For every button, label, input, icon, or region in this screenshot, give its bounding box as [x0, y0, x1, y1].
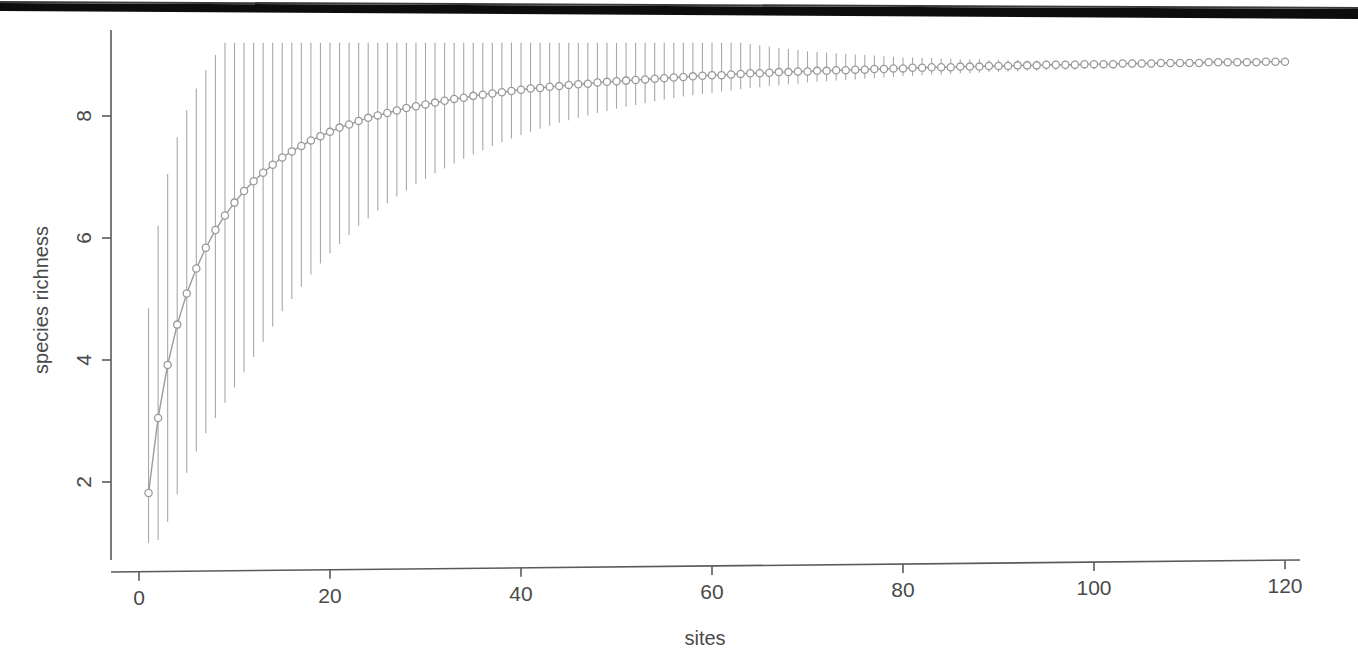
- data-point: [517, 86, 524, 93]
- data-point: [1215, 59, 1222, 66]
- x-tick-label: 60: [700, 580, 723, 603]
- data-point: [1119, 60, 1126, 67]
- data-point: [269, 161, 276, 168]
- rarefaction-plot: 2468 020406080100120 sites species richn…: [0, 0, 1358, 665]
- data-point: [603, 78, 610, 85]
- data-point: [1253, 59, 1260, 66]
- data-point: [1272, 58, 1279, 65]
- data-point: [317, 133, 324, 140]
- data-point: [718, 72, 725, 79]
- data-point: [336, 124, 343, 131]
- x-tick-label: 20: [318, 584, 341, 607]
- data-point: [756, 70, 763, 77]
- y-tick-label: 4: [72, 354, 95, 366]
- data-point: [880, 65, 887, 72]
- data-point: [508, 87, 515, 94]
- data-point: [365, 114, 372, 121]
- data-point: [852, 66, 859, 73]
- x-tick-label: 120: [1267, 574, 1302, 597]
- data-point: [145, 489, 152, 496]
- data-point: [164, 361, 171, 368]
- data-point: [1243, 59, 1250, 66]
- data-point: [155, 414, 162, 421]
- data-point: [622, 77, 629, 84]
- data-point: [1090, 61, 1097, 68]
- data-point: [546, 83, 553, 90]
- data-point: [556, 83, 563, 90]
- data-point: [794, 68, 801, 75]
- data-point: [1129, 60, 1136, 67]
- x-axis-title: sites: [684, 627, 725, 649]
- data-point: [1100, 61, 1107, 68]
- x-tick-labels: 020406080100120: [133, 574, 1302, 609]
- data-point: [355, 117, 362, 124]
- data-point: [527, 85, 534, 92]
- data-point: [804, 68, 811, 75]
- data-point: [1205, 59, 1212, 66]
- data-point: [909, 64, 916, 71]
- x-axis: [111, 560, 1300, 581]
- data-point: [575, 81, 582, 88]
- data-point: [403, 104, 410, 111]
- data-point: [766, 69, 773, 76]
- data-point: [670, 74, 677, 81]
- data-point: [947, 64, 954, 71]
- data-point: [326, 128, 333, 135]
- data-point: [1043, 61, 1050, 68]
- y-tick-label: 6: [72, 232, 95, 244]
- data-point: [785, 68, 792, 75]
- data-point: [1033, 62, 1040, 69]
- data-point: [775, 68, 782, 75]
- data-point: [708, 72, 715, 79]
- data-point: [260, 169, 267, 176]
- data-point: [489, 90, 496, 97]
- data-point: [632, 76, 639, 83]
- data-point: [928, 64, 935, 71]
- data-point: [737, 70, 744, 77]
- data-point: [393, 107, 400, 114]
- data-point: [890, 65, 897, 72]
- y-tick-label: 2: [72, 476, 95, 488]
- data-point: [1224, 59, 1231, 66]
- data-point: [183, 290, 190, 297]
- data-point: [1004, 62, 1011, 69]
- data-point: [479, 91, 486, 98]
- data-point: [412, 103, 419, 110]
- data-point: [680, 73, 687, 80]
- data-point: [651, 75, 658, 82]
- errorbar-layer: [149, 43, 1276, 543]
- data-point: [642, 76, 649, 83]
- y-tick-labels: 2468: [72, 110, 95, 488]
- data-point: [193, 265, 200, 272]
- data-point: [584, 80, 591, 87]
- data-point: [374, 112, 381, 119]
- data-point: [250, 178, 257, 185]
- data-point: [537, 84, 544, 91]
- data-point: [288, 148, 295, 155]
- data-point: [298, 142, 305, 149]
- data-point: [1157, 59, 1164, 66]
- data-point: [699, 72, 706, 79]
- y-tick-label: 8: [72, 110, 95, 122]
- data-point: [422, 101, 429, 108]
- data-point: [221, 212, 228, 219]
- x-tick-label: 80: [891, 578, 914, 601]
- data-point: [689, 73, 696, 80]
- y-axis-title: species richness: [30, 226, 52, 374]
- curve-layer: [149, 62, 1285, 493]
- data-point: [1052, 61, 1059, 68]
- data-point: [842, 67, 849, 74]
- data-point: [451, 95, 458, 102]
- data-point: [565, 81, 572, 88]
- data-point: [1062, 61, 1069, 68]
- data-point: [384, 109, 391, 116]
- data-point: [995, 62, 1002, 69]
- data-point: [823, 67, 830, 74]
- data-point: [1110, 61, 1117, 68]
- data-point: [957, 63, 964, 70]
- data-point: [1176, 59, 1183, 66]
- data-point: [728, 71, 735, 78]
- data-point: [307, 137, 314, 144]
- data-point: [985, 62, 992, 69]
- x-tick-label: 40: [509, 582, 532, 605]
